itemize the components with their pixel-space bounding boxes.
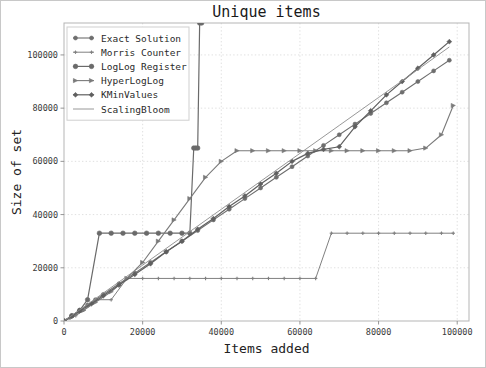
y-tick-label: 40000: [32, 210, 58, 220]
legend-label: KMinValues: [101, 89, 158, 100]
series-hyperloglog: [62, 103, 455, 323]
legend-label: HyperLogLog: [101, 75, 164, 86]
legend[interactable]: Exact SolutionMorris CounterLogLog Regis…: [67, 27, 189, 120]
y-tick-label: 80000: [32, 103, 58, 113]
legend-label: Exact Solution: [101, 33, 181, 44]
y-tick-label: 20000: [32, 263, 58, 273]
x-tick-label: 60000: [287, 327, 313, 337]
x-tick-label: 80000: [366, 327, 392, 337]
legend-label: Morris Counter: [101, 47, 181, 58]
y-axis-title: Size of set: [9, 129, 24, 215]
legend-label: LogLog Register: [101, 61, 187, 72]
legend-label: ScalingBloom: [101, 104, 170, 115]
x-axis-title: Items added: [223, 341, 309, 356]
x-tick-label: 40000: [208, 327, 234, 337]
series-morris-counter: [62, 231, 455, 322]
chart-title: Unique items: [212, 3, 320, 21]
unique-items-chart: 0200004000060000800001000000200004000060…: [1, 1, 486, 368]
x-tick-label: 20000: [130, 327, 156, 337]
y-tick-label: 0: [53, 316, 58, 326]
y-tick-label: 60000: [32, 156, 58, 166]
x-tick-label: 0: [61, 327, 66, 337]
chart-figure: 0200004000060000800001000000200004000060…: [0, 0, 486, 368]
x-tick-label: 100000: [442, 327, 473, 337]
y-tick-label: 100000: [27, 50, 58, 60]
